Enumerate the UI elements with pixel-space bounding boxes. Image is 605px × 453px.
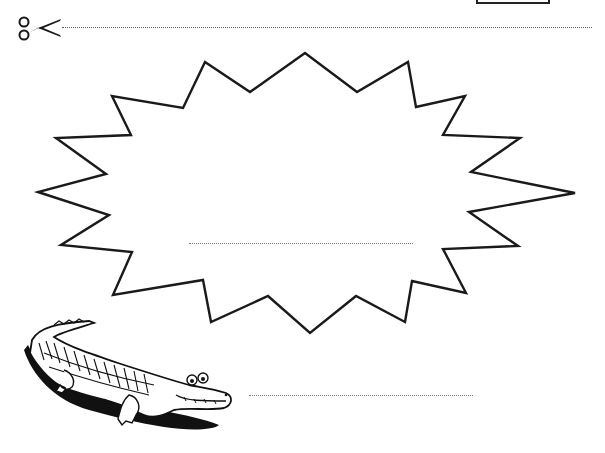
writing-line-inside-burst[interactable] <box>189 243 413 244</box>
writing-line-beside-crocodile[interactable] <box>249 395 473 396</box>
crocodile-illustration <box>14 315 239 435</box>
